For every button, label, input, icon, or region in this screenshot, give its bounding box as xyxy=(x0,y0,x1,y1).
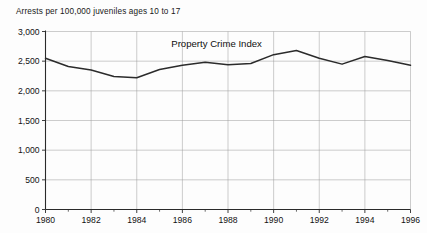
line-chart-plot: 05001,0001,5002,0002,5003,000 1980198219… xyxy=(0,0,427,233)
y-tick-label: 0 xyxy=(35,205,40,215)
x-tick-label: 1980 xyxy=(36,215,55,225)
y-tick-label: 3,000 xyxy=(18,27,40,37)
y-tick-label: 2,000 xyxy=(18,86,40,96)
y-tick-label: 1,000 xyxy=(18,145,40,155)
chart-title: Property Crime Index xyxy=(171,38,262,49)
x-axis-tick-labels: 198019821984198619881990199219941996 xyxy=(36,215,420,225)
x-tick-label: 1992 xyxy=(310,215,329,225)
x-tick-label: 1996 xyxy=(401,215,420,225)
x-tick-label: 1994 xyxy=(355,215,374,225)
x-tick-label: 1984 xyxy=(127,215,146,225)
y-tick-label: 1,500 xyxy=(18,116,40,126)
y-axis-tick-labels: 05001,0001,5002,0002,5003,000 xyxy=(18,27,40,215)
y-tick-label: 500 xyxy=(25,175,40,185)
x-tick-label: 1982 xyxy=(82,215,101,225)
x-tick-label: 1986 xyxy=(173,215,192,225)
chart-figure: Arrests per 100,000 juveniles ages 10 to… xyxy=(0,0,427,233)
y-tick-label: 2,500 xyxy=(18,56,40,66)
x-tick-label: 1988 xyxy=(218,215,237,225)
x-tick-label: 1990 xyxy=(264,215,283,225)
